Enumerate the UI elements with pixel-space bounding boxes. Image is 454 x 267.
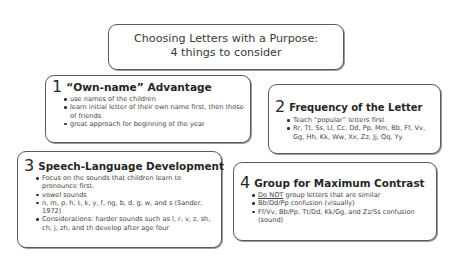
box-heading: 3Speech-Language Development <box>24 159 215 173</box>
bullet-list: Teach “popular” letters first Rr, Tt, Ss… <box>275 116 434 141</box>
consideration-box-contrast: 4Group for Maximum Contrast Do NOT group… <box>233 162 437 241</box>
bullet-item: Bb/Dd/Pp confusion (visually) <box>252 199 430 207</box>
box-heading-text: Frequency of the Letter <box>289 102 422 113</box>
box-heading-text: Group for Maximum Contrast <box>254 177 424 189</box>
title-box: Choosing Letters with a Purpose: 4 thing… <box>108 24 344 70</box>
box-number: 2 <box>275 97 285 116</box>
box-heading: 4Group for Maximum Contrast <box>240 176 430 190</box>
box-heading-text: Speech-Language Development <box>38 160 224 172</box>
box-heading-text: “Own-name” Advantage <box>66 81 212 93</box>
bullet-item: Ff/Vv, Bb/Pp, Tt/Dd, Kk/Gg, and Zz/Ss co… <box>252 208 430 225</box>
box-number: 3 <box>24 156 34 175</box>
bullet-item: vowel sounds <box>36 191 215 199</box>
bullet-text: group letters that are similar <box>283 191 380 199</box>
box-heading: 1“Own-name” Advantage <box>52 80 244 94</box>
emphasis-text: Do NOT <box>258 191 283 199</box>
bullet-item: great approach for beginning of the year <box>64 120 244 128</box>
bullet-item: use names of the children <box>64 95 244 103</box>
bullet-list: Do NOT group letters that are similar Bb… <box>240 191 430 224</box>
bullet-list: Focus on the sounds that children learn … <box>24 174 215 232</box>
bullet-item: Considerations: harder sounds such as l,… <box>36 215 215 232</box>
consideration-box-own-name: 1“Own-name” Advantage use names of the c… <box>45 75 251 143</box>
consideration-box-speech-language: 3Speech-Language Development Focus on th… <box>17 151 222 248</box>
title-line-1: Choosing Letters with a Purpose: <box>109 32 343 46</box>
bullet-item: Teach “popular” letters first <box>287 116 434 124</box>
consideration-box-frequency: 2Frequency of the Letter Teach “popular”… <box>268 84 441 154</box>
bullet-list: use names of the children learn initial … <box>52 95 244 128</box>
title-line-2: 4 things to consider <box>109 46 343 60</box>
box-number: 1 <box>52 77 62 96</box>
bullet-item: n, m, p, h, t, k, y, f, ng, b, d, g, w, … <box>36 199 215 216</box>
box-number: 4 <box>240 173 250 192</box>
bullet-item: Do NOT group letters that are similar <box>252 191 430 199</box>
bullet-item: Rr, Tt, Ss, Ll, Cc, Dd, Pp, Mm, Bb, Ff, … <box>287 124 434 141</box>
box-heading: 2Frequency of the Letter <box>275 100 434 115</box>
bullet-item: Focus on the sounds that children learn … <box>36 174 215 191</box>
bullet-item: learn initial letter of their own name f… <box>64 103 244 120</box>
